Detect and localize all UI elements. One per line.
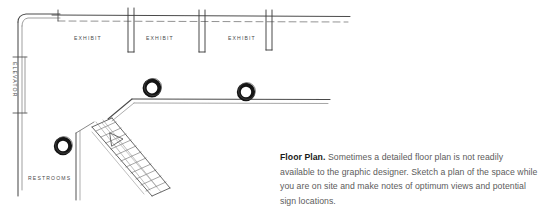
floor-plan-figure: EXHIBIT EXHIBIT EXHIBIT ELEVATOR RESTROO… (0, 0, 545, 212)
label-exhibit-1: EXHIBIT (74, 35, 102, 41)
column-ring-2 (239, 83, 256, 100)
label-exhibit-2: EXHIBIT (146, 35, 174, 41)
escalator (92, 118, 170, 196)
outer-wall (18, 14, 60, 196)
partition-wall-1 (128, 8, 134, 52)
column-ring-1 (144, 78, 161, 95)
label-exhibit-3: EXHIBIT (228, 35, 256, 41)
top-wall-line (52, 15, 350, 17)
caption-block: Floor Plan. Sometimes a detailed floor p… (280, 150, 538, 208)
column-ring-3 (56, 137, 73, 154)
sketch-labels: EXHIBIT EXHIBIT EXHIBIT ELEVATOR RESTROO… (12, 35, 256, 181)
label-restrooms: RESTROOMS (28, 175, 71, 181)
top-wall-dashed-line (58, 21, 348, 22)
caption-paragraph: Floor Plan. Sometimes a detailed floor p… (280, 150, 538, 208)
label-elevator: ELEVATOR (12, 62, 18, 98)
counter-wall (108, 99, 330, 121)
partition-wall-2 (199, 10, 205, 52)
restroom-divider-wall (76, 122, 94, 200)
caption-lead: Floor Plan. (280, 152, 325, 162)
columns (56, 78, 256, 153)
